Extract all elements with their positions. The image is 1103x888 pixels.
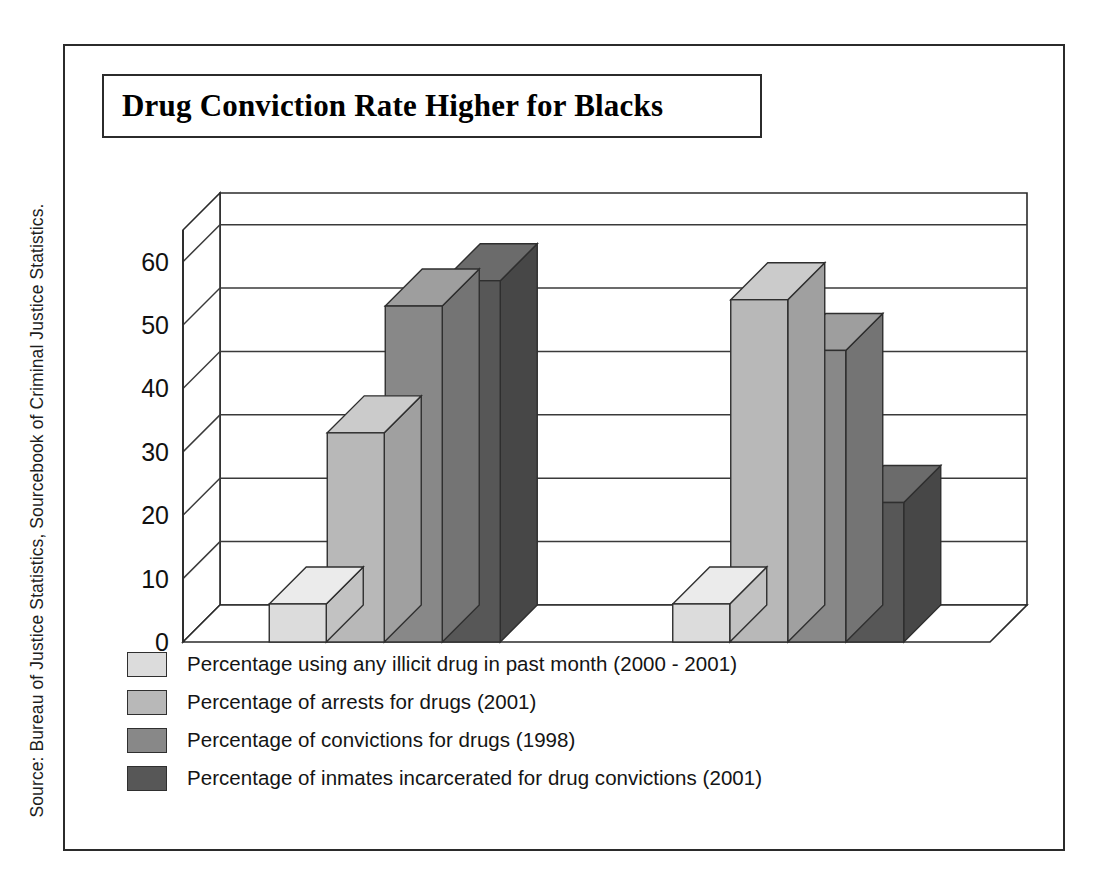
legend-swatch-icon (127, 728, 167, 753)
source-credit: Source: Bureau of Justice Statistics, So… (27, 191, 48, 831)
chart-side-wall (183, 193, 220, 642)
page-title: Drug Conviction Rate Higher for Blacks (104, 88, 663, 124)
y-tick-label: 10 (141, 565, 169, 593)
y-tick-label: 20 (141, 501, 169, 529)
y-tick-label: 50 (141, 311, 169, 339)
bar-side-face (788, 263, 825, 642)
legend-item: Percentage using any illicit drug in pas… (127, 646, 1027, 682)
bar-chart-plot: 0102030405060 BlackWhite (65, 154, 1065, 654)
bar-side-face (846, 313, 883, 642)
bar-side-face (500, 244, 537, 642)
figure-border: Drug Conviction Rate Higher for Blacks 0… (63, 44, 1065, 851)
chart-figure: Source: Bureau of Justice Statistics, So… (0, 0, 1103, 888)
title-box: Drug Conviction Rate Higher for Blacks (102, 74, 762, 138)
y-tick-label: 40 (141, 374, 169, 402)
legend-label: Percentage of arrests for drugs (2001) (187, 690, 536, 714)
y-tick-label: 30 (141, 438, 169, 466)
bar-front-face (269, 604, 326, 642)
legend-label: Percentage using any illicit drug in pas… (187, 652, 737, 676)
legend-swatch-icon (127, 766, 167, 791)
legend-label: Percentage of convictions for drugs (199… (187, 728, 575, 752)
bar-front-face (673, 604, 730, 642)
bar-side-face (442, 269, 479, 642)
legend-item: Percentage of arrests for drugs (2001) (127, 684, 1027, 720)
chart-legend: Percentage using any illicit drug in pas… (127, 646, 1027, 798)
bar-side-face (384, 396, 421, 642)
legend-item: Percentage of inmates incarcerated for d… (127, 760, 1027, 796)
legend-item: Percentage of convictions for drugs (199… (127, 722, 1027, 758)
legend-swatch-icon (127, 652, 167, 677)
legend-label: Percentage of inmates incarcerated for d… (187, 766, 762, 790)
legend-swatch-icon (127, 690, 167, 715)
y-tick-label: 60 (141, 248, 169, 276)
